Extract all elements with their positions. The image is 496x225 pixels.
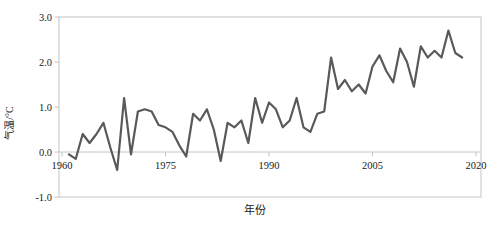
y-tick-label: 0.0 (39, 147, 52, 158)
y-tick-label: 3.0 (39, 12, 52, 23)
x-tick-label: 1990 (259, 160, 280, 171)
x-tick-label: 1960 (52, 160, 73, 171)
temperature-line-chart: 气温/°C 年份 -1.00.01.02.03.0196019751990200… (0, 0, 496, 225)
x-tick-label: 2005 (362, 160, 383, 171)
x-axis-title: 年份 (244, 203, 266, 216)
y-tick-label: 1.0 (39, 102, 52, 113)
y-axis-title: 气温/°C (3, 106, 15, 140)
y-tick-label: 2.0 (39, 57, 52, 68)
x-tick-label: 1975 (155, 160, 176, 171)
chart-page: 气温/°C 年份 -1.00.01.02.03.0196019751990200… (0, 0, 496, 225)
y-tick-label: -1.0 (35, 192, 52, 203)
x-tick-label: 2020 (466, 160, 487, 171)
temperature-series-line (69, 31, 462, 171)
